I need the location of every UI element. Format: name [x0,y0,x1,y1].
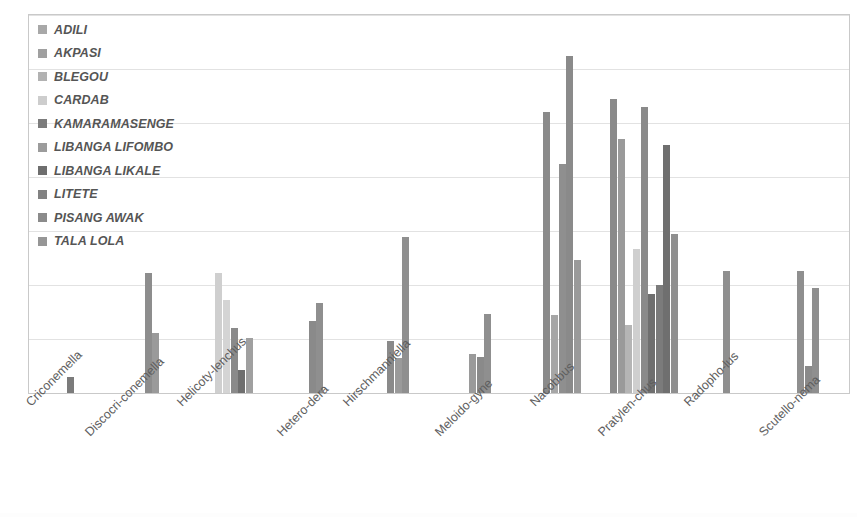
legend-swatch-icon [38,25,47,34]
bar [566,56,573,393]
bar [671,234,678,393]
legend-label: BLEGOU [54,70,108,84]
bar [633,249,640,393]
bar [625,325,632,393]
bar [574,260,581,393]
bar-group [275,15,357,393]
legend-swatch-icon [38,72,47,81]
legend-swatch-icon [38,96,47,105]
legend-label: AKPASI [54,46,101,60]
bar-group [357,15,439,393]
legend-swatch-icon [38,166,47,175]
bar [663,145,670,393]
legend-label: LIBANGA LIKALE [54,164,160,178]
legend-item: CARDAB [38,89,174,113]
legend-item: PISANG AWAK [38,206,174,230]
legend-label: LITETE [54,187,98,201]
bar [559,164,566,393]
legend-label: PISANG AWAK [54,211,144,225]
legend-swatch-icon [38,49,47,58]
bottom-edge [0,513,857,517]
legend-item: TALA LOLA [38,230,174,254]
bar-group [193,15,275,393]
legend-swatch-icon [38,213,47,222]
bar-group [685,15,767,393]
legend-item: ADILI [38,18,174,42]
bar [543,112,550,393]
legend: ADILIAKPASIBLEGOUCARDABKAMARAMASENGELIBA… [38,18,174,253]
legend-label: ADILI [54,23,87,37]
legend-label: CARDAB [54,93,109,107]
bar [67,377,74,393]
bar [309,321,316,393]
bar [641,107,648,393]
legend-label: LIBANGA LIFOMBO [54,140,173,154]
legend-swatch-icon [38,237,47,246]
legend-swatch-icon [38,119,47,128]
legend-item: LIBANGA LIKALE [38,159,174,183]
y-axis [0,14,26,394]
bar [402,237,409,393]
legend-item: BLEGOU [38,65,174,89]
legend-label: TALA LOLA [54,234,124,248]
legend-item: KAMARAMASENGE [38,112,174,136]
legend-item: LIBANGA LIFOMBO [38,136,174,160]
legend-item: LITETE [38,183,174,207]
bar-group [603,15,685,393]
bar-group [439,15,521,393]
legend-swatch-icon [38,190,47,199]
bar [238,370,245,393]
x-axis: CriconemellaDiscocri-conemellaHelicoty-l… [29,394,849,514]
bar [618,139,625,393]
bar [797,271,804,393]
bar [316,303,323,393]
bar [656,285,663,393]
bar [610,99,617,393]
legend-label: KAMARAMASENGE [54,117,174,131]
legend-swatch-icon [38,143,47,152]
bar-group [521,15,603,393]
grouped-bar-chart: CriconemellaDiscocri-conemellaHelicoty-l… [0,0,857,517]
bar-group [767,15,849,393]
legend-item: AKPASI [38,42,174,66]
